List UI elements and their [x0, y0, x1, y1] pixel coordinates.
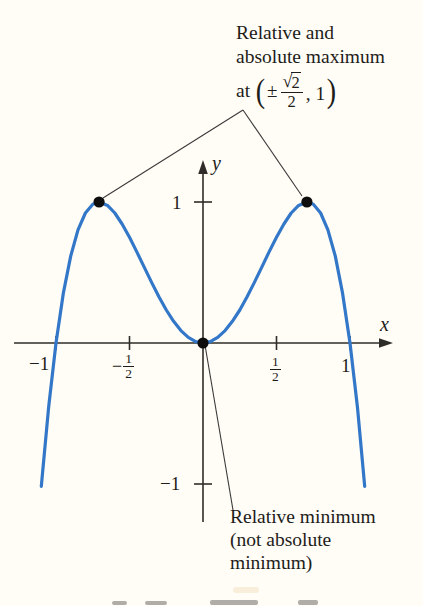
x-tick-label-neg-half: − 1 2 — [112, 352, 134, 381]
y-tick-label-neg-1: −1 — [160, 473, 180, 495]
maximum-annotation-line1: Relative and — [236, 21, 385, 45]
radicand: 2 — [291, 72, 300, 91]
minimum-annotation-line3: minimum) — [230, 551, 376, 574]
formula-value: , 1 — [306, 82, 326, 106]
minus-sign: − — [112, 356, 122, 377]
minimum-annotation: Relative minimum (not absolute minimum) — [230, 505, 376, 574]
x-tick-label-half: 1 2 — [270, 352, 281, 384]
leader-line-left-maximum — [103, 110, 243, 198]
x-axis-arrowhead-icon — [379, 338, 393, 348]
x-axis-label: x — [380, 313, 389, 336]
maximum-annotation-line2: absolute maximum — [236, 45, 385, 69]
y-axis-label: y — [212, 152, 221, 175]
formula-left-paren: ( — [256, 75, 265, 108]
leader-line-minimum — [205, 345, 233, 510]
x-tick-label-neg-1: −1 — [29, 353, 49, 375]
plus-minus-sign: ± — [267, 79, 277, 103]
figure-page: Relative and absolute maximum at ( ± √ 2… — [0, 0, 423, 606]
fraction-numerator: 1 — [270, 355, 281, 370]
minimum-annotation-line1: Relative minimum — [230, 505, 376, 528]
formula-right-paren: ) — [327, 75, 336, 108]
formula-at: at — [236, 79, 250, 103]
sqrt2-over-2-fraction: √ 2 2 — [281, 72, 303, 111]
fraction-numerator: 1 — [123, 352, 134, 367]
maximum-annotation: Relative and absolute maximum at ( ± √ 2… — [236, 21, 385, 112]
minimum-annotation-line2: (not absolute — [230, 528, 376, 551]
fraction-denominator: 2 — [272, 370, 279, 384]
x-tick-label-1: 1 — [341, 355, 351, 377]
leader-line-right-maximum — [243, 110, 302, 196]
left-maximum-point — [93, 196, 104, 207]
fraction-denominator: 2 — [287, 93, 295, 110]
y-axis-arrowhead-icon — [198, 160, 208, 174]
minimum-point — [197, 337, 208, 348]
maximum-annotation-formula: at ( ± √ 2 2 , 1 ) — [236, 70, 385, 112]
fraction-denominator: 2 — [125, 367, 132, 381]
y-tick-label-1: 1 — [172, 192, 182, 214]
right-maximum-point — [301, 196, 312, 207]
